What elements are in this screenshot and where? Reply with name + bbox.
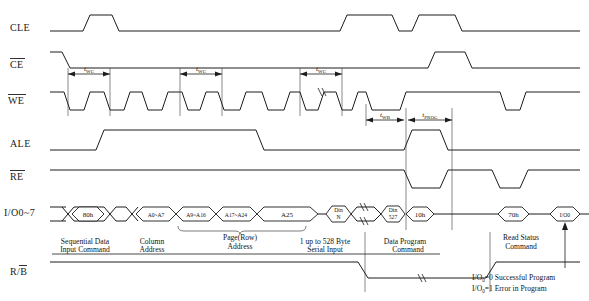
signal-label-re: RE	[10, 171, 24, 182]
annotation-serial-input-line2: Serial Input	[307, 245, 344, 254]
bus-cycle-label-a17-a24: A17~A24	[225, 212, 247, 218]
timing-label-twc-2-sub: WC	[198, 69, 207, 74]
bus-cycle-label-10h: 10h	[415, 211, 426, 219]
bus-cycle-80h: 80h	[72, 207, 104, 221]
timing-marker-twc-1: tWC	[68, 65, 110, 116]
bus-cycle-label-a0-a7: A0~A7	[148, 212, 165, 218]
bus-cycle-70h: 70h	[498, 207, 529, 221]
annotation-page-row-line1: Page(Row)	[223, 233, 258, 242]
bus-cycle-a0-a7: A0~A7	[136, 207, 176, 221]
io-bus-group: 80h A0~A7 A9~A16 A17~A24 A25	[50, 203, 589, 225]
bus-cycle-a17-a24: A17~A24	[216, 207, 257, 221]
reference-guides	[365, 108, 490, 292]
status-note-pass: I/O0=0 Successful Program	[472, 273, 555, 283]
bus-cycle-io0: I/O0	[550, 207, 580, 221]
bus-cycle-din-527: Din 527	[381, 206, 405, 222]
annotation-read-status-line1: Read Status	[503, 233, 539, 242]
annotation-prog-cmd-line2: Command	[392, 245, 424, 254]
bus-cycle-label-io0: I/O0	[560, 212, 570, 218]
timing-label-twc-1-sub: WC	[86, 69, 95, 74]
status-note-fail: I/O0=1 Error in Program	[472, 284, 547, 294]
timing-label-twc-3-sub: WC	[318, 69, 327, 74]
bus-cycle-a9-a16: A9~A16	[176, 207, 216, 221]
signal-label-cle: CLE	[10, 22, 30, 33]
status-notes-group: I/O0=0 Successful Program I/O0=1 Error i…	[472, 273, 555, 294]
annotation-seq-data-cmd-line2: Input Command	[60, 245, 110, 254]
signal-label-group: CLE CE WE ALE RE I/O0~7 R/B	[4, 22, 35, 277]
timing-label-twc-2: tWC	[196, 65, 207, 74]
waveform-we	[50, 92, 580, 110]
io-crossing-2	[104, 207, 116, 221]
bus-cycle-label-a25: A25	[281, 211, 294, 219]
bus-cycle-label-70h: 70h	[508, 211, 519, 219]
waveform-ale	[50, 130, 580, 150]
timing-diagram-canvas: CLE CE WE ALE RE I/O0~7 R/B	[0, 0, 589, 301]
status-pointer-group	[562, 222, 568, 268]
annotation-col-addr-line2: Address	[140, 245, 165, 254]
signal-label-ale: ALE	[10, 138, 31, 149]
bus-cycle-10h: 10h	[406, 207, 434, 221]
timing-label-twb: tWB	[380, 111, 391, 120]
status-pointer-arrowhead	[562, 222, 568, 230]
timing-marker-twc-3: tWC	[300, 65, 342, 116]
timing-label-twb-sub: WB	[382, 115, 391, 120]
status-note-pass-pre: I/O	[472, 273, 483, 282]
signal-label-ce: CE	[10, 59, 24, 70]
annotation-read-status-line2: Command	[505, 242, 537, 251]
status-note-fail-pre: I/O	[472, 284, 483, 293]
timing-label-tprog: tPROG	[422, 111, 438, 120]
timing-label-twc-3: tWC	[316, 65, 327, 74]
bus-cycle-a25: A25	[257, 207, 318, 221]
bus-cycle-din-n: Din N	[326, 206, 351, 222]
waveform-cle	[50, 15, 580, 31]
annotation-group: Sequential Data Input Command Column Add…	[60, 233, 539, 254]
status-note-fail-post: =1 Error in Program	[485, 284, 547, 293]
signal-label-rb: R/B	[10, 266, 27, 277]
status-note-pass-post: =0 Successful Program	[485, 273, 556, 282]
din-ellipsis-region	[351, 203, 381, 225]
waveform-re	[50, 170, 580, 188]
timing-label-tprog-sub: PROG	[424, 115, 438, 120]
bus-cycle-label-a9-a16: A9~A16	[186, 212, 206, 218]
timing-marker-tprog: tPROG	[408, 111, 452, 123]
bus-cycle-label-din-n-2: N	[336, 214, 340, 220]
bus-cycle-label-din-527-2: 527	[389, 214, 398, 220]
timing-label-twc-1: tWC	[84, 65, 95, 74]
bus-cycle-label-din-527-1: Din	[389, 207, 398, 213]
signal-label-we: WE	[8, 95, 24, 106]
timing-marker-twb: tWB	[366, 104, 404, 126]
timing-diagram-svg: CLE CE WE ALE RE I/O0~7 R/B	[0, 0, 589, 301]
bus-cycle-label-din-n-1: Din	[334, 207, 343, 213]
annotation-page-row-line2: Address	[228, 242, 253, 251]
signal-label-io: I/O0~7	[4, 207, 35, 218]
bus-cycle-label-80h: 80h	[83, 211, 94, 219]
